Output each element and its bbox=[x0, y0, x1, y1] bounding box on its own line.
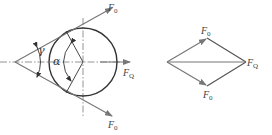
left-diagram: γ α F0 F0 FQ bbox=[0, 2, 134, 132]
force-top-label-right: F0 bbox=[200, 25, 211, 38]
upper-tangent-line bbox=[15, 8, 112, 62]
force-resultant-label-right: FQ bbox=[246, 57, 258, 70]
force-parallelogram: F0 F0 FQ bbox=[167, 25, 258, 102]
alpha-label: α bbox=[53, 55, 61, 68]
rhombus-lower-left bbox=[167, 62, 206, 85]
force-top-label-left: F0 bbox=[107, 2, 118, 15]
rhombus-lower-right bbox=[207, 62, 246, 86]
force-bottom-label-left: F0 bbox=[107, 119, 118, 132]
rhombus-upper-right bbox=[207, 38, 246, 62]
gamma-label: γ bbox=[38, 44, 45, 57]
rhombus-upper-left bbox=[167, 39, 206, 62]
force-bottom-label-right: F0 bbox=[202, 89, 213, 102]
lower-tangent-line bbox=[15, 62, 112, 116]
force-axial-label-left: FQ bbox=[122, 67, 134, 80]
wedge-force-diagram: γ α F0 F0 FQ F0 F0 FQ bbox=[0, 0, 272, 135]
